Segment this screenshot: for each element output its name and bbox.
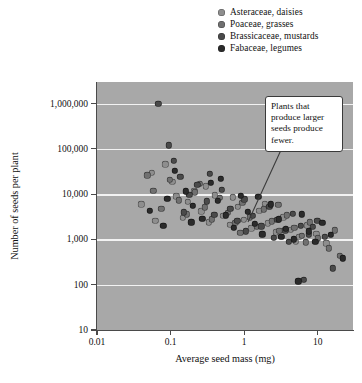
x-tick-label: 10: [313, 337, 323, 347]
annotation-callout: Plants that produce larger seeds produce…: [265, 96, 343, 152]
x-tick-mark: [317, 330, 318, 335]
x-tick-label: 1: [242, 337, 247, 347]
x-tick-mark: [170, 330, 171, 335]
x-axis-title: Average seed mass (mg): [175, 353, 275, 364]
seed-mass-scatter-figure: Asteraceae, daisiesPoaceae, grassesBrass…: [0, 0, 362, 383]
x-tick-label: 0.01: [89, 337, 106, 347]
x-axis-ticks: 0.010.1110: [0, 0, 362, 383]
x-tick-label: 0.1: [165, 337, 177, 347]
x-tick-mark: [244, 330, 245, 335]
x-tick-mark: [96, 330, 97, 335]
